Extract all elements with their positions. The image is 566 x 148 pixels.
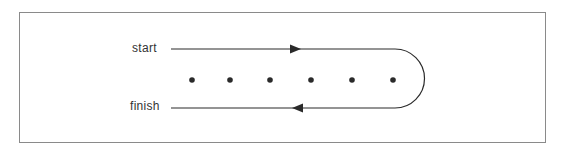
loop-path	[171, 49, 425, 108]
arrow-left-icon	[292, 104, 303, 113]
dots	[189, 77, 396, 83]
path-diagram	[0, 0, 566, 148]
arrow-right-icon	[290, 45, 301, 54]
